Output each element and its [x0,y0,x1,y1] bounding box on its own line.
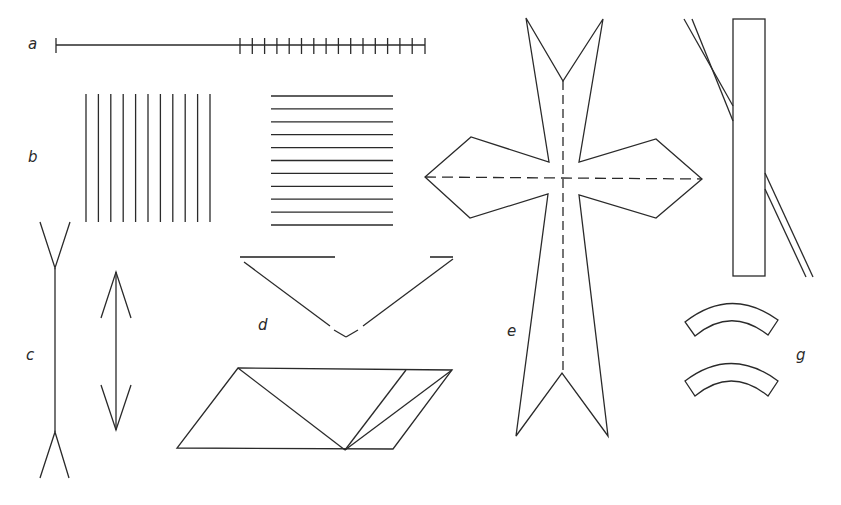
panel-d-subjective-triangle [240,257,453,337]
panel-a-oppel-kundt [56,38,425,54]
panel-b-vertical-grating [86,94,210,222]
panel-e-cross [425,18,702,436]
panel-f-poggendorff [684,19,813,277]
illusions-figure [0,0,841,505]
panel-d-sander-parallelogram [177,368,452,450]
panel-b-horizontal-grating [271,96,393,225]
tick-marks [240,38,425,54]
panel-g-jastrow [685,303,778,396]
panel-c-muller-lyer [40,222,131,478]
